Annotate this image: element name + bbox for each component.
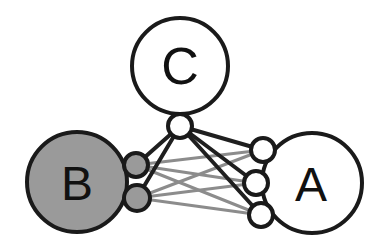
cluster-label-c: C — [161, 37, 199, 95]
graph-diagram-canvas: CBA — [0, 0, 378, 251]
port-node-c-hub[interactable] — [168, 114, 192, 138]
port-node-a-bottom[interactable] — [249, 203, 273, 227]
cluster-label-a: A — [295, 158, 327, 211]
port-node-b-top[interactable] — [124, 153, 148, 177]
graph-diagram-svg: CBA — [0, 0, 378, 251]
port-node-a-middle[interactable] — [244, 171, 268, 195]
port-node-a-top[interactable] — [251, 138, 275, 162]
cluster-label-b: B — [61, 157, 93, 210]
port-node-b-bottom[interactable] — [124, 185, 150, 211]
